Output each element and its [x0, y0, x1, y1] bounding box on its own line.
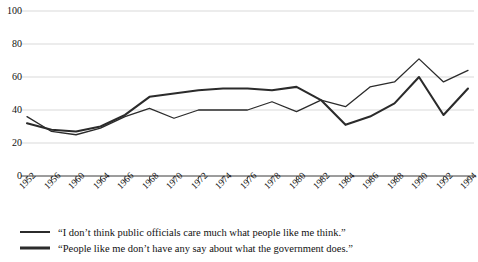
y-axis-tick-label: 100: [0, 6, 22, 16]
legend-label-series-1: “I don’t think public officials care muc…: [58, 227, 346, 238]
y-axis-tick-label: 0: [0, 171, 22, 181]
legend-line-swatch-series-1: [20, 227, 50, 237]
legend: “I don’t think public officials care muc…: [20, 224, 460, 256]
series-line-2: [27, 77, 468, 131]
legend-item: “People like me don’t have any say about…: [20, 240, 460, 256]
y-axis-tick-label: 80: [0, 39, 22, 49]
line-chart: 020406080100 195219561960196419661968197…: [0, 0, 478, 262]
legend-label-series-2: “People like me don’t have any say about…: [58, 243, 353, 254]
y-axis-tick-label: 20: [0, 138, 22, 148]
legend-line-swatch-series-2: [20, 243, 50, 253]
series-lines: [27, 59, 468, 135]
y-axis-tick-label: 40: [0, 105, 22, 115]
legend-item: “I don’t think public officials care muc…: [20, 224, 460, 240]
chart-canvas: [0, 0, 478, 262]
y-axis-tick-label: 60: [0, 72, 22, 82]
gridlines: [21, 11, 474, 176]
plot-area: [0, 0, 478, 262]
